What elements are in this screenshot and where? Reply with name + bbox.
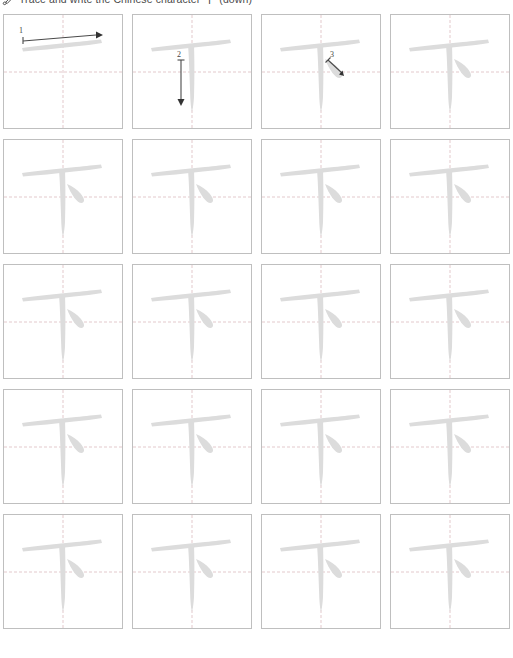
stroke-layer <box>391 15 510 129</box>
practice-grid: 1 2 <box>3 14 511 639</box>
grid-row <box>3 264 511 379</box>
character-glyph <box>4 390 122 503</box>
stroke-layer <box>133 390 252 504</box>
practice-cell-trace[interactable] <box>132 389 252 504</box>
practice-cell-trace[interactable] <box>390 264 510 379</box>
character-glyph <box>262 390 380 503</box>
practice-cell-full[interactable] <box>390 14 510 129</box>
stroke-layer: 2 <box>133 15 252 129</box>
stroke-number-label: 2 <box>177 50 181 59</box>
character-glyph <box>4 140 122 253</box>
stroke-layer <box>133 515 252 629</box>
stroke-layer <box>391 265 510 379</box>
character-glyph <box>133 390 251 503</box>
character-glyph: 3 <box>262 15 380 128</box>
practice-cell-trace[interactable] <box>3 139 123 254</box>
practice-cell-stroke-1[interactable]: 1 <box>3 14 123 129</box>
stroke-layer <box>4 515 123 629</box>
practice-cell-trace[interactable] <box>132 514 252 629</box>
practice-cell-trace[interactable] <box>132 139 252 254</box>
stroke-layer <box>4 140 123 254</box>
practice-cell-trace[interactable] <box>3 514 123 629</box>
stroke-layer <box>391 515 510 629</box>
stroke-layer: 1 <box>4 15 123 129</box>
character-glyph <box>133 140 251 253</box>
header-character: 下 <box>204 0 215 6</box>
stroke-layer <box>133 140 252 254</box>
practice-cell-trace[interactable] <box>261 514 381 629</box>
practice-cell-trace[interactable] <box>390 139 510 254</box>
stroke-layer <box>262 265 381 379</box>
grid-row: 1 2 <box>3 14 511 129</box>
practice-cell-stroke-2[interactable]: 2 <box>132 14 252 129</box>
practice-cell-trace[interactable] <box>261 139 381 254</box>
stroke-layer <box>262 515 381 629</box>
stroke-layer <box>133 265 252 379</box>
practice-cell-stroke-3[interactable]: 3 <box>261 14 381 129</box>
stroke-layer <box>4 265 123 379</box>
stroke-layer: 3 <box>262 15 381 129</box>
practice-cell-trace[interactable] <box>390 389 510 504</box>
stroke-layer <box>391 390 510 504</box>
character-glyph <box>391 390 509 503</box>
stroke-layer <box>262 140 381 254</box>
grid-row <box>3 514 511 629</box>
grid-row <box>3 139 511 254</box>
practice-cell-trace[interactable] <box>390 514 510 629</box>
character-glyph <box>391 15 509 128</box>
character-glyph <box>391 265 509 378</box>
character-glyph <box>262 515 380 628</box>
character-glyph <box>133 265 251 378</box>
character-glyph <box>262 265 380 378</box>
practice-cell-trace[interactable] <box>261 389 381 504</box>
grid-row <box>3 389 511 504</box>
stroke-layer <box>391 140 510 254</box>
character-glyph <box>4 265 122 378</box>
practice-cell-trace[interactable] <box>132 264 252 379</box>
stroke-number-label: 3 <box>330 50 334 59</box>
character-glyph <box>391 140 509 253</box>
practice-cell-trace[interactable] <box>3 389 123 504</box>
character-glyph <box>133 515 251 628</box>
stroke-layer <box>262 390 381 504</box>
worksheet-header: Trace and write the Chinese character 下 … <box>0 0 513 7</box>
character-glyph <box>4 515 122 628</box>
character-glyph <box>391 515 509 628</box>
stroke-number-label: 1 <box>19 26 23 35</box>
pencil-icon <box>2 0 15 6</box>
stroke-layer <box>4 390 123 504</box>
character-glyph: 2 <box>133 15 251 128</box>
character-glyph <box>262 140 380 253</box>
practice-cell-trace[interactable] <box>3 264 123 379</box>
character-glyph: 1 <box>4 15 122 128</box>
header-meaning: (down) <box>219 0 252 6</box>
practice-cell-trace[interactable] <box>261 264 381 379</box>
header-instruction: Trace and write the Chinese character <box>19 0 200 6</box>
